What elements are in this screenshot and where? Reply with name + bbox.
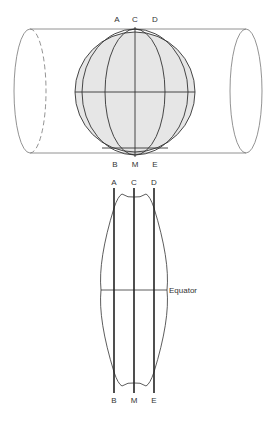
label-d-bottom: D [151, 178, 157, 187]
projection-diagram: A C D B M E A C D B M E Equator [0, 0, 274, 422]
equator-label: Equator [169, 286, 197, 295]
label-c-bottom: C [131, 178, 137, 187]
label-m-bottom: M [131, 396, 138, 405]
label-c-top: C [132, 15, 138, 24]
meridians [114, 188, 154, 393]
label-a-top: A [114, 15, 120, 24]
label-b-top: B [112, 160, 117, 169]
label-b-bottom: B [111, 396, 116, 405]
label-e-top: E [152, 160, 157, 169]
label-d-top: D [152, 15, 158, 24]
label-a-bottom: A [111, 178, 117, 187]
globe [75, 27, 195, 157]
label-m-top: M [132, 160, 139, 169]
label-e-bottom: E [151, 396, 156, 405]
